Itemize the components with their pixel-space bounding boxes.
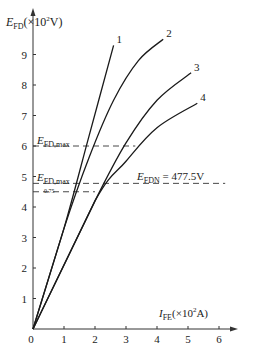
x-axis-label: IFE(×102A): [158, 306, 208, 322]
efdn-label: EFDN = 477.5V: [136, 170, 204, 185]
x-tick-label: 6: [216, 333, 222, 345]
efd-max-label: EFD,max: [36, 134, 70, 149]
series-label-3: 3: [194, 61, 200, 73]
factor-label: 0.75: [44, 188, 55, 194]
y-tick-label: 3: [22, 232, 28, 244]
series-label-2: 2: [166, 27, 172, 39]
y-tick-label: 4: [22, 201, 28, 213]
y-ticks: 123456789: [22, 49, 37, 305]
x-tick-label: 1: [61, 333, 67, 345]
y-axis-label: EFD(×102V): [5, 15, 63, 31]
y-tick-label: 5: [22, 171, 28, 183]
y-tick-label: 6: [22, 140, 28, 152]
y-tick-label: 7: [22, 110, 28, 122]
x-tick-label: 0: [28, 333, 34, 345]
series-label-1: 1: [117, 33, 123, 45]
x-tick-label: 3: [123, 333, 129, 345]
series-label-4: 4: [200, 91, 206, 103]
y-tick-label: 8: [22, 79, 28, 91]
efd-max-scaled-label: EFD,max: [36, 171, 70, 186]
y-tick-label: 2: [22, 262, 28, 274]
series-line-3: [33, 73, 191, 329]
x-axis-arrow-icon: [230, 327, 238, 332]
series-line-4: [33, 103, 197, 329]
y-tick-label: 9: [22, 49, 28, 61]
x-tick-label: 4: [154, 333, 160, 345]
x-tick-label: 5: [185, 333, 191, 345]
excitation-characteristic-chart: 123456789 0123456 1234 EFD(×102V) IFE(×1…: [0, 0, 255, 359]
y-tick-label: 1: [22, 293, 28, 305]
x-tick-label: 2: [92, 333, 98, 345]
